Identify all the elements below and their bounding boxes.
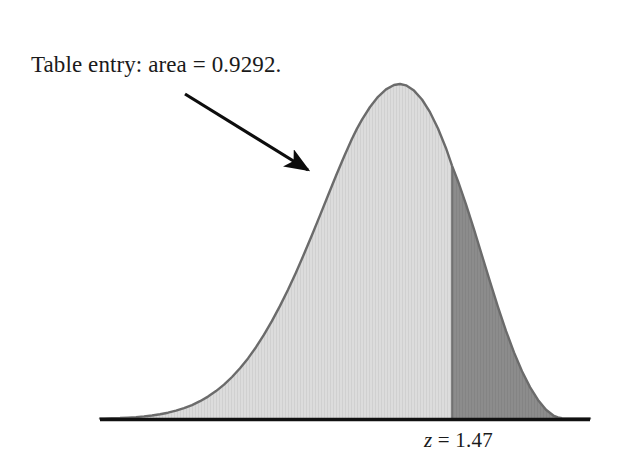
z-value-number: 1.47 [455, 428, 493, 452]
annotation-arrow [185, 94, 308, 170]
z-value-label: z = 1.47 [424, 428, 493, 453]
table-entry-caption: Table entry: area = 0.9292. [31, 52, 281, 78]
left-shaded-area [100, 84, 452, 419]
figure-canvas: Table entry: area = 0.9292. z = 1.47 [0, 0, 621, 470]
right-tail-shaded-area [452, 166, 590, 419]
z-equals-sign: = [432, 428, 455, 452]
